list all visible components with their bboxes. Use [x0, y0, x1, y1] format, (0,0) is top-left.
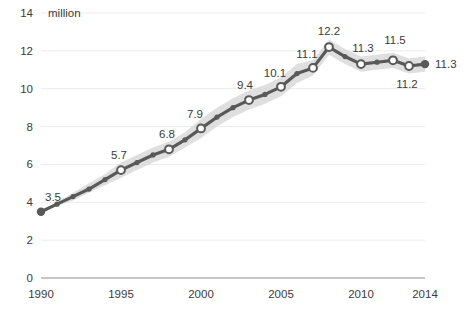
data-point-2011 [374, 60, 379, 65]
y-axis-tick-6: 6 [27, 158, 33, 170]
data-point-label-2013: 11.2 [396, 78, 418, 90]
y-axis-tick-2: 2 [27, 234, 33, 246]
data-point-label-2012: 11.5 [384, 34, 406, 46]
data-point-marker-2010 [357, 60, 365, 68]
data-point-1999 [182, 137, 187, 142]
data-point-label-2007: 11.1 [296, 48, 318, 60]
x-axis-tick-1990: 1990 [28, 288, 54, 300]
x-axis-tick-1995: 1995 [108, 288, 134, 300]
data-point-2006 [294, 71, 299, 76]
data-point-label-2008: 12.2 [318, 25, 340, 37]
x-axis-tick-2014: 2014 [412, 288, 438, 300]
y-axis-tick-4: 4 [27, 196, 34, 208]
data-point-marker-2005 [277, 83, 285, 91]
x-axis-tick-2010: 2010 [348, 288, 374, 300]
data-point-marker-2008 [325, 43, 333, 51]
data-point-label-2014: 11.3 [435, 58, 457, 70]
data-point-2001 [214, 115, 219, 120]
data-point-2002 [230, 105, 235, 110]
x-axis-tick-2005: 2005 [268, 288, 294, 300]
data-point-1997 [150, 152, 155, 157]
data-point-label-2003: 9.4 [237, 79, 254, 91]
chart-canvas: 02468101214million1990199520002005201020… [0, 0, 469, 322]
data-point-label-1998: 6.8 [159, 128, 175, 140]
data-point-label-2005: 10.1 [264, 67, 286, 79]
y-axis-tick-0: 0 [27, 272, 33, 284]
data-point-label-1995: 5.7 [111, 149, 127, 161]
y-axis-tick-14: 14 [20, 7, 33, 19]
data-point-2009 [342, 54, 347, 59]
data-point-marker-2003 [245, 96, 253, 104]
uncertainty-band [41, 40, 425, 212]
line-chart: 02468101214million1990199520002005201020… [0, 0, 469, 322]
data-point-1993 [86, 186, 91, 191]
data-point-marker-2013 [405, 62, 413, 70]
data-point-marker-2012 [389, 56, 397, 64]
data-point-marker-2007 [309, 64, 317, 72]
y-axis-unit-label: million [48, 7, 81, 19]
x-axis-tick-2000: 2000 [188, 288, 214, 300]
data-point-marker-2014 [421, 60, 429, 68]
y-axis-tick-8: 8 [27, 121, 33, 133]
data-point-label-1990: 3.5 [45, 191, 61, 203]
data-point-1996 [134, 160, 139, 165]
data-point-label-2010: 11.3 [352, 42, 374, 54]
data-point-marker-2000 [197, 125, 205, 133]
data-point-marker-1990 [37, 208, 45, 216]
data-point-1994 [102, 177, 107, 182]
data-point-marker-1995 [117, 166, 125, 174]
data-point-label-2000: 7.9 [187, 108, 203, 120]
data-point-marker-1998 [165, 145, 173, 153]
data-point-1992 [70, 194, 75, 199]
y-axis-tick-12: 12 [20, 45, 33, 57]
y-axis-tick-10: 10 [20, 83, 33, 95]
data-point-2004 [262, 92, 267, 97]
